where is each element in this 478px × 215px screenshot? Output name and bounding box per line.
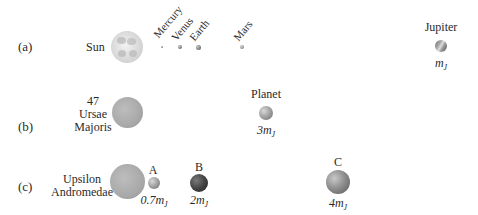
mars-label: Mars bbox=[231, 18, 255, 43]
star-label-line: Majoris bbox=[73, 121, 113, 134]
mercury-icon bbox=[161, 46, 163, 48]
planet-c-label: C bbox=[328, 156, 348, 169]
row-label-c: (c) bbox=[18, 179, 32, 195]
planet-c-mass: 4mJ bbox=[318, 196, 358, 212]
planet-label: Planet bbox=[246, 88, 286, 101]
earth-icon bbox=[196, 45, 201, 50]
planet-a-icon bbox=[148, 177, 160, 189]
star-47-ursae-majoris-label: 47 Ursae Majoris bbox=[73, 95, 113, 134]
row-label-b: (b) bbox=[18, 119, 33, 135]
row-label-a: (a) bbox=[18, 39, 32, 55]
planet-c-icon bbox=[326, 170, 350, 194]
sun-label: Sun bbox=[86, 41, 105, 54]
jupiter-label: Jupiter bbox=[421, 21, 461, 34]
planet-icon bbox=[259, 106, 273, 120]
planet-b-icon bbox=[190, 174, 208, 192]
planet-a-label: A bbox=[143, 164, 163, 177]
star-47-ursae-majoris-icon bbox=[112, 97, 143, 128]
sun-icon bbox=[111, 31, 143, 63]
planet-b-mass: 2mJ bbox=[179, 193, 219, 209]
planet-mass: 3mJ bbox=[246, 123, 286, 139]
mars-icon bbox=[240, 45, 244, 49]
jupiter-icon bbox=[435, 40, 447, 52]
jupiter-mass: mJ bbox=[421, 56, 461, 72]
star-label-line: Andromedae bbox=[50, 186, 114, 199]
planet-a-mass: 0.7mJ bbox=[134, 193, 174, 209]
upsilon-andromedae-label: Upsilon Andromedae bbox=[50, 173, 114, 199]
venus-icon bbox=[178, 45, 182, 49]
planet-b-label: B bbox=[189, 161, 209, 174]
